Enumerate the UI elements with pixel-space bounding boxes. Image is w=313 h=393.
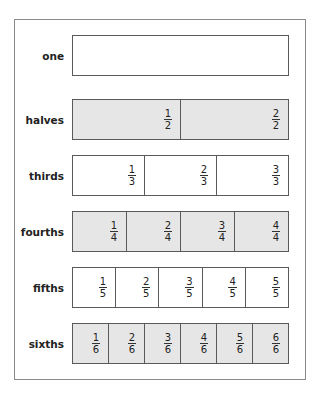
numerator: 5	[272, 276, 280, 288]
denominator: 6	[165, 344, 171, 355]
denominator: 5	[186, 288, 192, 299]
denominator: 4	[111, 232, 117, 243]
numerator: 5	[236, 332, 244, 344]
fraction: 13	[128, 164, 136, 187]
fraction-bar-sixths: 16 26 36 46 56 66	[72, 323, 289, 364]
fraction-bar-halves: 12 22	[72, 99, 289, 140]
row-sixths: sixths 16 26 36 46 56 66	[0, 323, 313, 364]
fraction: 36	[164, 332, 172, 355]
denominator: 2	[273, 120, 279, 131]
numerator: 1	[92, 332, 100, 344]
numerator: 3	[164, 332, 172, 344]
denominator: 5	[100, 288, 106, 299]
fraction-bar-fifths: 15 25 35 45 55	[72, 267, 289, 308]
bar-cell: 56	[216, 324, 252, 363]
fraction: 25	[142, 276, 150, 299]
fraction-bar-one	[72, 35, 289, 76]
denominator: 6	[237, 344, 243, 355]
bar-cell: 14	[73, 212, 126, 251]
bar-cell: 23	[144, 156, 216, 195]
denominator: 6	[129, 344, 135, 355]
fraction: 33	[272, 164, 280, 187]
row-halves: halves 12 22	[0, 99, 313, 140]
numerator: 4	[272, 220, 280, 232]
numerator: 2	[164, 220, 172, 232]
fraction: 22	[272, 108, 280, 131]
denominator: 6	[201, 344, 207, 355]
denominator: 4	[273, 232, 279, 243]
fraction: 15	[99, 276, 107, 299]
denominator: 4	[219, 232, 225, 243]
row-label: fourths	[21, 211, 64, 252]
row-fourths: fourths 14 24 34 44	[0, 211, 313, 252]
fraction: 26	[128, 332, 136, 355]
denominator: 5	[273, 288, 279, 299]
bar-cell: 24	[126, 212, 180, 251]
numerator: 1	[110, 220, 118, 232]
numerator: 1	[164, 108, 172, 120]
denominator: 6	[273, 344, 279, 355]
row-fifths: fifths 15 25 35 45 55	[0, 267, 313, 308]
numerator: 2	[272, 108, 280, 120]
numerator: 1	[128, 164, 136, 176]
bar-cell: 22	[180, 100, 288, 139]
fraction: 34	[218, 220, 226, 243]
bar-cell	[73, 36, 288, 75]
numerator: 4	[228, 276, 236, 288]
bar-cell: 45	[202, 268, 245, 307]
numerator: 1	[99, 276, 107, 288]
denominator: 2	[165, 120, 171, 131]
fraction: 35	[185, 276, 193, 299]
fraction: 12	[164, 108, 172, 131]
denominator: 5	[229, 288, 235, 299]
numerator: 4	[200, 332, 208, 344]
denominator: 3	[129, 176, 135, 187]
bar-cell: 44	[234, 212, 288, 251]
denominator: 3	[201, 176, 207, 187]
numerator: 3	[218, 220, 226, 232]
row-label: thirds	[29, 155, 64, 196]
denominator: 5	[143, 288, 149, 299]
bar-cell: 66	[252, 324, 288, 363]
fraction: 23	[200, 164, 208, 187]
fraction: 14	[110, 220, 118, 243]
fraction-bar-fourths: 14 24 34 44	[72, 211, 289, 252]
bar-cell: 34	[180, 212, 234, 251]
row-label: sixths	[29, 323, 64, 364]
denominator: 4	[165, 232, 171, 243]
fraction: 44	[272, 220, 280, 243]
numerator: 3	[272, 164, 280, 176]
bar-cell: 15	[73, 268, 115, 307]
bar-cell: 12	[73, 100, 180, 139]
numerator: 2	[142, 276, 150, 288]
fraction: 56	[236, 332, 244, 355]
bar-cell: 13	[73, 156, 144, 195]
row-label: one	[42, 35, 64, 76]
numerator: 6	[272, 332, 280, 344]
fraction: 45	[228, 276, 236, 299]
numerator: 2	[200, 164, 208, 176]
fraction-bar-thirds: 13 23 33	[72, 155, 289, 196]
numerator: 3	[185, 276, 193, 288]
bar-cell: 35	[158, 268, 201, 307]
numerator: 2	[128, 332, 136, 344]
bar-cell: 46	[180, 324, 216, 363]
fraction: 66	[272, 332, 280, 355]
fraction: 16	[92, 332, 100, 355]
bar-cell: 33	[216, 156, 288, 195]
bar-cell: 36	[144, 324, 180, 363]
bar-cell: 55	[245, 268, 288, 307]
fraction: 24	[164, 220, 172, 243]
row-label: halves	[26, 99, 64, 140]
fraction: 46	[200, 332, 208, 355]
denominator: 6	[93, 344, 99, 355]
bar-cell: 16	[73, 324, 108, 363]
row-thirds: thirds 13 23 33	[0, 155, 313, 196]
row-label: fifths	[33, 267, 64, 308]
denominator: 3	[273, 176, 279, 187]
fraction: 55	[272, 276, 280, 299]
bar-cell: 26	[108, 324, 144, 363]
row-one: one	[0, 35, 313, 76]
bar-cell: 25	[115, 268, 158, 307]
